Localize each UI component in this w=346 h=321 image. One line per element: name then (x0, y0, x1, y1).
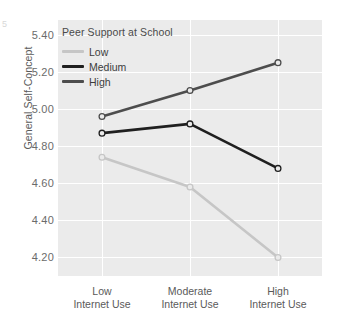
data-point-marker (275, 166, 281, 172)
line-chart-figure: 5 General Self-Concept 5.405.205.004.804… (0, 0, 346, 321)
x-tick-label: ModerateInternet Use (161, 285, 218, 311)
legend-swatch-icon (62, 80, 84, 83)
legend-title: Peer Support at School (62, 26, 212, 38)
legend-entries: LowMediumHigh (62, 45, 212, 88)
x-tick-label-line: Internet Use (73, 298, 130, 311)
legend-item-medium[interactable]: Medium (62, 60, 212, 73)
data-point-marker (275, 255, 281, 261)
data-point-marker (99, 154, 105, 160)
y-tick-label: 4.60 (10, 177, 54, 189)
data-point-marker (187, 184, 193, 190)
x-tick-label: LowInternet Use (73, 285, 130, 311)
y-tick-label: 4.20 (10, 251, 54, 263)
data-point-marker (275, 60, 281, 66)
legend-item-label: Low (89, 46, 108, 58)
legend-item-label: Medium (89, 61, 126, 73)
data-point-marker (99, 130, 105, 136)
legend-swatch-icon (62, 50, 84, 53)
y-tick-label: 4.40 (10, 214, 54, 226)
data-point-marker (187, 121, 193, 127)
x-tick-label-line: Moderate (161, 285, 218, 298)
x-tick-label-line: Internet Use (161, 298, 218, 311)
x-tick-label-line: Low (73, 285, 130, 298)
y-axis-tick-labels: 5.405.205.004.804.604.404.20 (8, 0, 54, 321)
x-tick-label-line: High (249, 285, 306, 298)
series-line-low (102, 157, 278, 257)
legend-swatch-icon (62, 65, 84, 68)
y-tick-label: 5.40 (10, 29, 54, 41)
y-tick-label: 5.20 (10, 66, 54, 78)
x-tick-label-line: Internet Use (249, 298, 306, 311)
data-point-marker (99, 114, 105, 120)
legend-item-high[interactable]: High (62, 75, 212, 88)
legend-item-low[interactable]: Low (62, 45, 212, 58)
y-tick-label: 5.00 (10, 103, 54, 115)
x-tick-label: HighInternet Use (249, 285, 306, 311)
series-line-medium (102, 124, 278, 169)
legend: Peer Support at School LowMediumHigh (62, 26, 212, 90)
legend-item-label: High (89, 76, 111, 88)
y-tick-label: 4.80 (10, 140, 54, 152)
